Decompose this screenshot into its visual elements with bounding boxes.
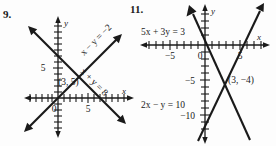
solution-point-label-9: (3, 5) <box>58 77 79 88</box>
problem-panel-9: 9. <box>0 0 138 146</box>
x-tick-label-5: 5 <box>238 51 243 61</box>
x-axis-letter-9: x <box>121 86 126 96</box>
y-tick-label-5: 5 <box>41 63 46 73</box>
y-axis-letter-11: y <box>210 6 215 16</box>
x-tick-label-5: 5 <box>86 104 91 114</box>
x-axis-letter-11: x <box>256 32 261 42</box>
arrowhead-line4-upper <box>256 3 265 12</box>
equation-label-2x-minus-y: 2x − y = 10 <box>141 100 185 110</box>
equation-label-5x-plus-3y: 5x + 3y = 3 <box>141 27 185 37</box>
problem-panel-11: y x −5 0 5 −5 −10 5x + 3y = 3 2x − y = 1… <box>138 0 276 146</box>
problem-number-11: 11. <box>130 3 143 15</box>
y-tick-label-neg5: −5 <box>185 76 195 86</box>
x-tick-label-0: 0 <box>198 51 203 61</box>
x-tick-label-0: 0 <box>52 104 57 114</box>
x-tick-label-neg5: −5 <box>165 51 175 61</box>
line-x-plus-y-eq-8 <box>33 31 121 119</box>
y-tick-label-neg10: −10 <box>180 111 195 121</box>
arrowhead-line3-upper <box>187 5 197 17</box>
y-axis-letter-9: y <box>63 18 68 28</box>
graph-9: y x 5 0 5 (3, 5) x − y = −2 x + y = 8 <box>0 0 138 146</box>
equation-label-x-minus-y: x − y = −2 <box>78 22 113 57</box>
solution-point-label-11: (3, −4) <box>228 75 254 86</box>
graph-11: y x −5 0 5 −5 −10 5x + 3y = 3 2x − y = 1… <box>138 0 276 146</box>
